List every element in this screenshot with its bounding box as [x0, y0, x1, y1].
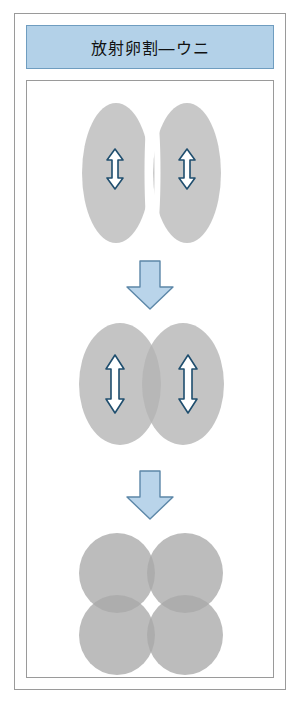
page-title: 放射卵割—ウニ	[91, 35, 210, 59]
cleavage-furrow	[137, 97, 167, 249]
diagram-canvas	[26, 80, 274, 678]
stage-2-group	[27, 323, 273, 455]
diagram-title-bar: 放射卵割—ウニ	[26, 25, 274, 69]
stage-1-group	[27, 97, 273, 247]
diagram-figure: 放射卵割—ウニ	[14, 13, 286, 690]
down-block-arrow-1	[123, 259, 177, 311]
down-block-arrow-2	[123, 469, 177, 521]
stage-3-cell-bottom-left	[79, 595, 155, 675]
stage-3-group	[27, 533, 273, 678]
stage-3-cell-bottom-right	[147, 595, 223, 675]
stage-1-double-arrow-left	[101, 147, 129, 191]
stage-1-double-arrow-right	[173, 147, 201, 191]
stage-2-double-arrow-left	[100, 353, 130, 415]
stage-2-double-arrow-right	[173, 353, 203, 415]
